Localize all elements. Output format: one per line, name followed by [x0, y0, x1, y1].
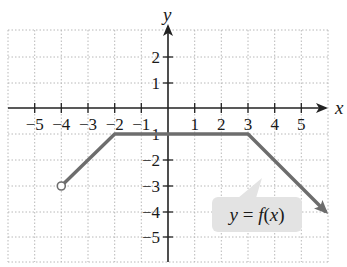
- x-tick-label: −4: [52, 115, 71, 134]
- y-tick-label: −2: [142, 151, 160, 170]
- y-tick-label: −3: [142, 177, 160, 196]
- open-endpoint-circle: [57, 182, 65, 190]
- x-tick-label: 3: [244, 115, 253, 134]
- y-axis-label: y: [161, 4, 172, 25]
- x-tick-label: −2: [106, 115, 124, 134]
- x-tick-label: 2: [217, 115, 226, 134]
- y-tick-label: −5: [142, 228, 160, 247]
- x-tick-label: 4: [270, 115, 279, 134]
- x-tick-label: −3: [79, 115, 97, 134]
- y-tick-label: 2: [152, 48, 161, 67]
- x-axis-label: x: [334, 97, 344, 118]
- function-graph: −5 −4 −3 −2 −1 1 2 3 4 5 2 1 −1 −2 −3 −4…: [0, 0, 347, 267]
- x-tick-labels: −5 −4 −3 −2 −1 1 2 3 4 5: [26, 115, 306, 134]
- x-tick-label: 1: [190, 115, 199, 134]
- x-tick-label: −5: [26, 115, 44, 134]
- x-tick-label: 5: [297, 115, 306, 134]
- y-tick-label: −4: [142, 203, 161, 222]
- function-label: y = f(x): [227, 204, 284, 226]
- y-tick-label: 1: [152, 74, 161, 93]
- y-tick-labels: 2 1 −1 −2 −3 −4 −5: [142, 48, 161, 247]
